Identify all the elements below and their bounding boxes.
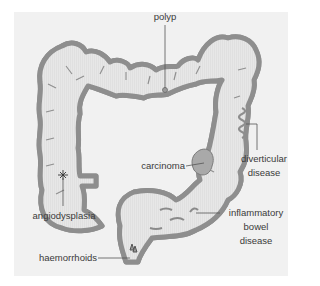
label-ibd-line3: disease [221,234,291,248]
label-inflammatory-bowel-disease: inflammatory bowel disease [221,206,291,248]
polyp-growth [163,88,168,93]
label-diverticular: diverticular disease [232,152,296,180]
label-polyp: polyp [148,10,182,24]
label-diverticular-line2: disease [232,166,296,180]
label-angiodysplasia: angiodysplasia [24,209,104,223]
carcinoma-mass [192,149,213,175]
label-carcinoma: carcinoma [130,159,185,173]
label-ibd-line2: bowel [221,220,291,234]
label-diverticular-line1: diverticular [232,152,296,166]
label-ibd-line1: inflammatory [221,206,291,220]
label-haemorrhoids: haemorrhoids [39,251,97,265]
